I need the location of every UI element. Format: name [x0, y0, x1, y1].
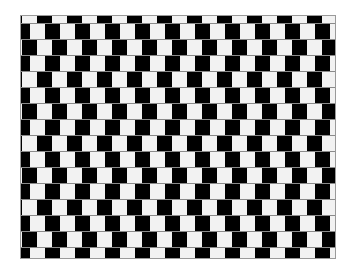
- light-tile: [60, 248, 75, 258]
- light-tile: [270, 248, 285, 258]
- light-tile: [240, 248, 255, 258]
- light-tile: [112, 16, 127, 23]
- tile-row: [21, 24, 335, 39]
- light-tile: [210, 216, 225, 231]
- light-tile: [300, 248, 315, 258]
- tile-row: [21, 152, 335, 167]
- light-tile: [142, 136, 157, 151]
- light-tile: [60, 24, 75, 39]
- light-tile: [60, 152, 75, 167]
- light-tile: [120, 184, 135, 199]
- light-tile: [240, 120, 255, 135]
- light-tile: [180, 88, 195, 103]
- light-tile: [52, 136, 67, 151]
- light-tile: [217, 40, 232, 55]
- light-tile: [262, 200, 277, 215]
- light-tile: [210, 56, 225, 71]
- light-tile: [240, 152, 255, 167]
- light-tile: [30, 24, 45, 39]
- light-tile: [150, 248, 165, 258]
- light-tile: [187, 168, 202, 183]
- light-tile: [52, 200, 67, 215]
- light-tile: [97, 232, 112, 247]
- light-tile: [52, 72, 67, 87]
- light-tile: [232, 136, 247, 151]
- light-tile: [270, 216, 285, 231]
- light-tile: [157, 40, 172, 55]
- light-tile: [330, 88, 335, 103]
- light-tile: [330, 184, 335, 199]
- light-tile: [172, 136, 187, 151]
- light-tile: [22, 136, 37, 151]
- light-tile: [300, 152, 315, 167]
- light-tile: [180, 24, 195, 39]
- light-tile: [322, 72, 335, 87]
- light-tile: [172, 200, 187, 215]
- light-tile: [330, 24, 335, 39]
- light-tile: [157, 232, 172, 247]
- light-tile: [210, 88, 225, 103]
- light-tile: [82, 16, 97, 23]
- light-tile: [150, 184, 165, 199]
- light-tile: [60, 184, 75, 199]
- light-tile: [21, 232, 22, 247]
- cafe-wall-pattern: [21, 16, 335, 258]
- tile-row: [21, 16, 335, 23]
- light-tile: [82, 200, 97, 215]
- light-tile: [127, 40, 142, 55]
- light-tile: [157, 168, 172, 183]
- light-tile: [150, 88, 165, 103]
- tile-row: [21, 184, 335, 199]
- light-tile: [210, 24, 225, 39]
- light-tile: [180, 56, 195, 71]
- light-tile: [300, 88, 315, 103]
- light-tile: [277, 168, 292, 183]
- light-tile: [150, 120, 165, 135]
- light-tile: [240, 88, 255, 103]
- light-tile: [52, 16, 67, 23]
- light-tile: [37, 40, 52, 55]
- light-tile: [120, 152, 135, 167]
- light-tile: [300, 56, 315, 71]
- light-tile: [300, 184, 315, 199]
- light-tile: [90, 248, 105, 258]
- light-tile: [187, 232, 202, 247]
- light-tile: [150, 24, 165, 39]
- light-tile: [90, 24, 105, 39]
- light-tile: [60, 56, 75, 71]
- light-tile: [307, 104, 322, 119]
- light-tile: [142, 200, 157, 215]
- light-tile: [210, 120, 225, 135]
- light-tile: [180, 152, 195, 167]
- light-tile: [90, 88, 105, 103]
- light-tile: [90, 216, 105, 231]
- light-tile: [60, 216, 75, 231]
- tile-row: [21, 168, 335, 183]
- light-tile: [292, 72, 307, 87]
- light-tile: [300, 216, 315, 231]
- light-tile: [112, 72, 127, 87]
- light-tile: [120, 120, 135, 135]
- tile-row: [21, 232, 335, 247]
- light-tile: [172, 16, 187, 23]
- light-tile: [277, 232, 292, 247]
- light-tile: [232, 16, 247, 23]
- light-tile: [142, 72, 157, 87]
- light-tile: [330, 152, 335, 167]
- light-tile: [292, 136, 307, 151]
- light-tile: [120, 216, 135, 231]
- light-tile: [210, 152, 225, 167]
- light-tile: [270, 152, 285, 167]
- light-tile: [30, 184, 45, 199]
- light-tile: [202, 16, 217, 23]
- light-tile: [67, 104, 82, 119]
- light-tile: [262, 16, 277, 23]
- light-tile: [217, 168, 232, 183]
- light-tile: [232, 72, 247, 87]
- light-tile: [30, 56, 45, 71]
- light-tile: [37, 168, 52, 183]
- light-tile: [187, 104, 202, 119]
- light-tile: [307, 40, 322, 55]
- light-tile: [97, 104, 112, 119]
- light-tile: [21, 40, 22, 55]
